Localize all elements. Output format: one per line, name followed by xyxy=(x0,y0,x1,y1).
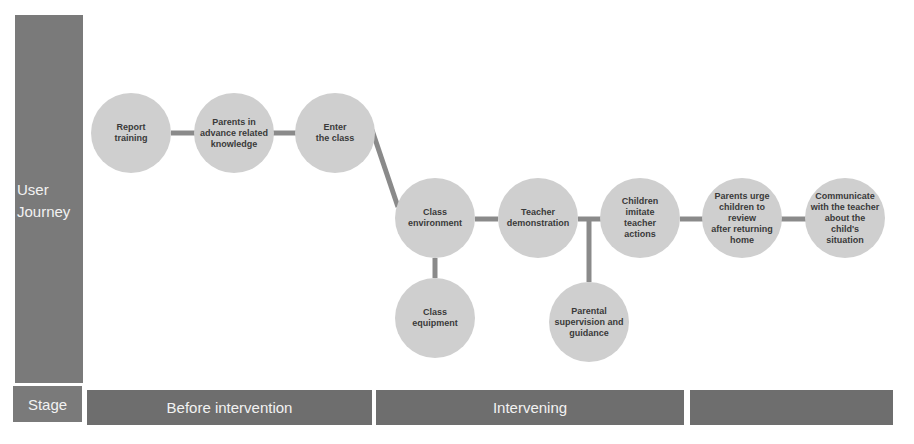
node-class-equipment: Class equipment xyxy=(395,278,475,358)
node-parental-supervision: Parental supervision and guidance xyxy=(549,282,629,362)
node-report-training: Report training xyxy=(91,93,171,173)
node-parents-urge: Parents urge children to review after re… xyxy=(702,178,782,258)
node-class-environment: Class environment xyxy=(395,178,475,258)
node-parents-knowledge: Parents in advance related knowledge xyxy=(194,93,274,173)
node-teacher-demonstration: Teacher demonstration xyxy=(498,178,578,258)
node-enter-class: Enter the class xyxy=(295,93,375,173)
node-children-imitate: Children imitate teacher actions xyxy=(600,178,680,258)
connector-line xyxy=(372,130,398,207)
node-communicate-teacher: Communicate with the teacher about the c… xyxy=(805,178,885,258)
